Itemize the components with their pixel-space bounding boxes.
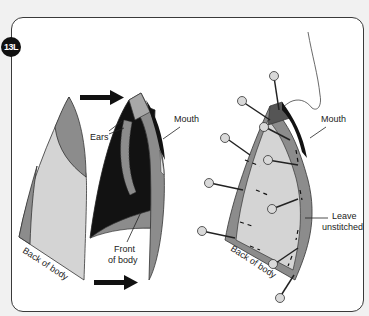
pin-head-icon [221, 134, 230, 143]
pin-head-icon [198, 227, 207, 236]
left-mouth-label: Mouth [174, 114, 199, 124]
ears-label: Ears [90, 132, 109, 142]
right-mouth-leader-line [310, 127, 326, 138]
step-number-badge: 13L [1, 37, 21, 57]
mouth-leader-line [163, 127, 180, 139]
pin-head-icon [238, 97, 247, 106]
pin-head-icon [205, 179, 214, 188]
leave-unstitched-label-line2: unstitched [322, 222, 363, 232]
thread [280, 32, 321, 110]
pin-head-icon [276, 294, 285, 303]
top-arrow-right-icon [80, 90, 124, 105]
pin-head-icon [260, 123, 269, 132]
right-mouth-label: Mouth [321, 114, 346, 124]
front-of-body-label-line2: of body [108, 255, 138, 265]
leave-unstitched-label-line1: Leave [332, 211, 357, 221]
pin-head-icon [270, 72, 279, 81]
sewing-diagram: Ears Mouth Front of body Back of body [0, 0, 369, 316]
pin-head-icon [264, 156, 273, 165]
front-of-body-label-line1: Front [114, 244, 136, 254]
pin-head-icon [268, 205, 277, 214]
bottom-arrow-right-icon [94, 275, 138, 290]
